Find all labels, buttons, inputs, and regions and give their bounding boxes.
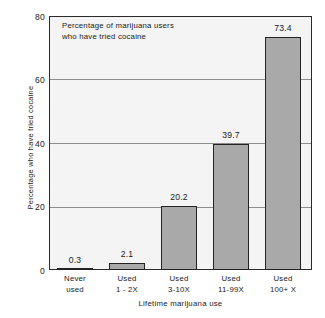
bar-used-1-2x[interactable]: [109, 263, 145, 270]
x-tick-line-2: 100+ X: [251, 285, 315, 296]
x-tick-label-used-100plus-x: Used 100+ X: [251, 274, 315, 295]
bar-used-11-99x[interactable]: [213, 144, 249, 270]
y-tick-label-60: 60: [5, 75, 45, 85]
bar-slot-used-11-99x: 39.7: [213, 16, 249, 270]
x-tick-line-1: Never: [64, 274, 86, 283]
y-tick-label-40: 40: [5, 139, 45, 149]
bar-value-label: 2.1: [121, 249, 134, 259]
x-tick-line-1: Used: [169, 274, 188, 283]
bar-series: 0.3 2.1 20.2 39.7 73.4: [49, 16, 312, 270]
y-tick-label-0: 0: [5, 266, 45, 276]
bar-value-label: 73.4: [274, 23, 292, 33]
bar-chart-figure: Percentage who have tried cocaine 80 60 …: [0, 0, 325, 318]
bar-slot-used-3-10x: 20.2: [161, 16, 197, 270]
x-tick-line-1: Used: [221, 274, 240, 283]
chart-annotation: Percentage of marijuana users who have t…: [62, 21, 174, 42]
y-tick-label-80: 80: [5, 12, 45, 22]
bar-value-label: 0.3: [69, 255, 82, 265]
y-tick-label-20: 20: [5, 202, 45, 212]
bar-value-label: 39.7: [222, 130, 240, 140]
x-tick-line-1: Used: [117, 274, 136, 283]
bar-slot-used-100plus-x: 73.4: [265, 16, 301, 270]
bar-value-label: 20.2: [170, 192, 188, 202]
bar-slot-never-used: 0.3: [57, 16, 93, 270]
annotation-line-2: who have tried cocaine: [62, 32, 146, 41]
x-axis-tick-labels: Never used Used 1 - 2X Used 3-10X Used 1…: [49, 274, 312, 298]
annotation-line-1: Percentage of marijuana users: [62, 21, 174, 30]
bar-never-used[interactable]: [57, 268, 93, 270]
bar-slot-used-1-2x: 2.1: [109, 16, 145, 270]
bar-used-3-10x[interactable]: [161, 206, 197, 270]
bar-used-100plus-x[interactable]: [265, 37, 301, 270]
x-axis-title: Lifetime marijuana use: [49, 299, 312, 308]
x-tick-line-1: Used: [273, 274, 292, 283]
